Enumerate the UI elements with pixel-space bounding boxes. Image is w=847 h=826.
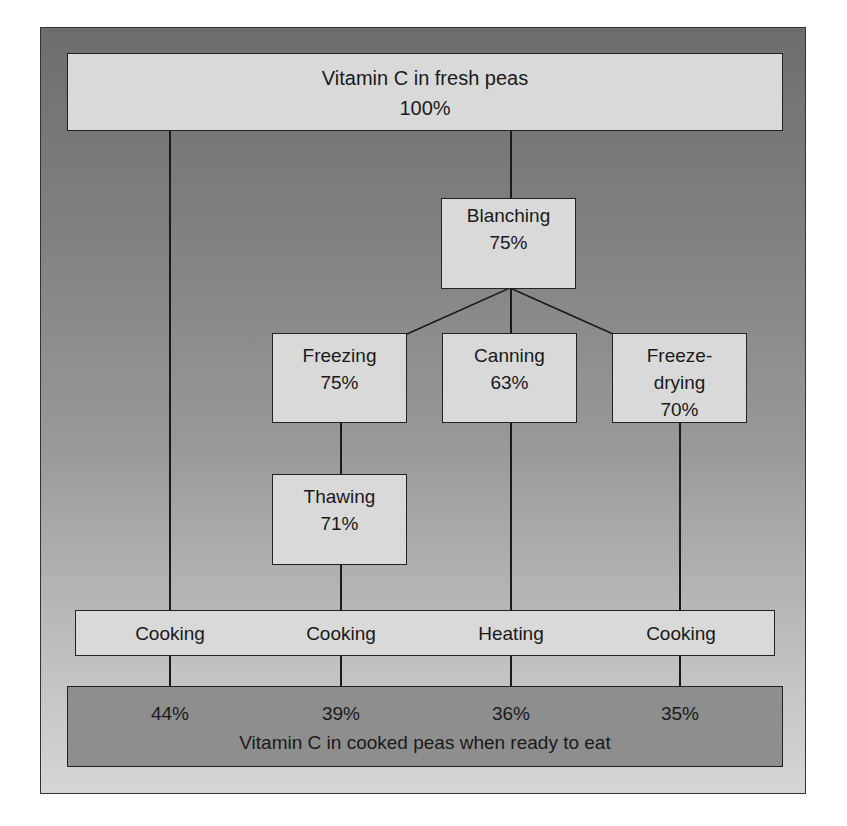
cooked-peas-box: 44% 39% 36% 35% Vitamin C in cooked peas… bbox=[67, 686, 783, 767]
canning-label: Canning bbox=[443, 342, 576, 369]
cooked-peas-caption: Vitamin C in cooked peas when ready to e… bbox=[68, 729, 782, 756]
freezing-box: Freezing 75% bbox=[272, 333, 407, 423]
result-3: 36% bbox=[451, 700, 571, 727]
thawing-label: Thawing bbox=[273, 483, 406, 510]
thawing-value: 71% bbox=[273, 510, 406, 537]
freeze-drying-box: Freeze- drying 70% bbox=[612, 333, 747, 423]
blanching-label: Blanching bbox=[442, 202, 575, 229]
freezing-value: 75% bbox=[273, 369, 406, 396]
final-steps-bar: Cooking Cooking Heating Cooking bbox=[75, 610, 775, 656]
thawing-box: Thawing 71% bbox=[272, 474, 407, 565]
fresh-peas-box: Vitamin C in fresh peas 100% bbox=[67, 53, 783, 131]
blanching-box: Blanching 75% bbox=[441, 198, 576, 289]
freeze-drying-value: 70% bbox=[613, 396, 746, 423]
canning-value: 63% bbox=[443, 369, 576, 396]
final-step-4: Cooking bbox=[621, 620, 741, 647]
freeze-drying-label-2: drying bbox=[613, 369, 746, 396]
fresh-peas-value: 100% bbox=[68, 93, 782, 123]
blanching-value: 75% bbox=[442, 229, 575, 256]
result-2: 39% bbox=[281, 700, 401, 727]
fresh-peas-title: Vitamin C in fresh peas bbox=[68, 63, 782, 93]
final-step-2: Cooking bbox=[281, 620, 401, 647]
result-1: 44% bbox=[110, 700, 230, 727]
freeze-drying-label-1: Freeze- bbox=[613, 342, 746, 369]
freezing-label: Freezing bbox=[273, 342, 406, 369]
final-step-1: Cooking bbox=[110, 620, 230, 647]
result-4: 35% bbox=[620, 700, 740, 727]
canning-box: Canning 63% bbox=[442, 333, 577, 423]
final-step-3: Heating bbox=[451, 620, 571, 647]
